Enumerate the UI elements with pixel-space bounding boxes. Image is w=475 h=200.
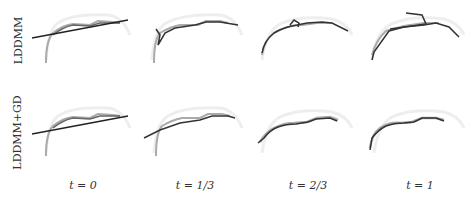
panel-lddmm-t2-3 bbox=[252, 5, 362, 75]
panel-lddmm-gd-t1-3 bbox=[140, 98, 250, 168]
row-label-lddmm-gd: LDDMM+GD bbox=[11, 91, 24, 175]
column-label-t0: t = 0 bbox=[33, 179, 133, 192]
row-label-lddmm: LDDMM bbox=[12, 11, 25, 71]
panel-lddmm-t1-3 bbox=[140, 5, 250, 75]
column-label-t2-3: t = 2/3 bbox=[258, 179, 358, 192]
column-label-t1: t = 1 bbox=[370, 179, 470, 192]
panel-lddmm-gd-t2-3 bbox=[252, 98, 362, 168]
panel-lddmm-gd-t1 bbox=[364, 98, 474, 168]
panel-lddmm-t1 bbox=[364, 5, 474, 75]
panel-lddmm-t0 bbox=[28, 5, 138, 75]
column-label-t1-3: t = 1/3 bbox=[145, 179, 245, 192]
panel-lddmm-gd-t0 bbox=[28, 98, 138, 168]
